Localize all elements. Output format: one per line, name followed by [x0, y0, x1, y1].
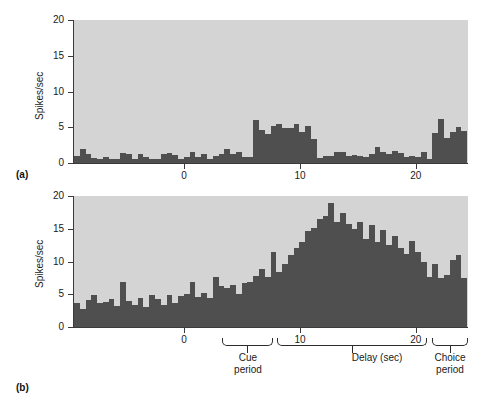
y-axis-tick-label: 20 [34, 191, 64, 201]
y-axis-tick-label: 5 [34, 122, 64, 132]
panel-b-y-axis-line [73, 196, 74, 328]
panel-b-plot-area [74, 196, 468, 327]
y-axis-tick [68, 196, 73, 197]
panel-a-x-axis-line [73, 163, 468, 164]
panel-a-y-axis-line [73, 20, 74, 164]
cue-period-bracket [222, 338, 273, 346]
y-axis-tick [68, 327, 73, 328]
x-axis-tick [416, 328, 417, 333]
panel-b-x-axis-line [73, 327, 468, 328]
y-axis-tick-label: 0 [34, 322, 64, 332]
histogram-bar [461, 278, 467, 327]
x-axis-tick-label: 20 [396, 171, 436, 181]
y-axis-tick-label: 20 [34, 15, 64, 25]
delay-period-bracket [277, 338, 427, 346]
panel-a-bars [74, 20, 468, 163]
panel-a: Spikes/sec 05101520 01020 (a) [0, 0, 491, 190]
y-axis-tick [68, 92, 73, 93]
spike-rate-figure: Spikes/sec 05101520 01020 (a) Spikes/sec… [0, 0, 491, 403]
y-axis-tick-label: 0 [34, 158, 64, 168]
panel-b: Spikes/sec 05101520 01020 Cue period Del… [0, 190, 491, 403]
y-axis-tick [68, 229, 73, 230]
x-axis-tick-label: 10 [280, 171, 320, 181]
panel-a-letter: (a) [16, 169, 28, 180]
x-axis-tick [416, 164, 417, 169]
x-axis-tick-label: 0 [164, 335, 204, 345]
x-axis-tick [300, 328, 301, 333]
choice-period-bracket [432, 338, 468, 346]
x-axis-tick [300, 164, 301, 169]
cue-period-label: Cue period [213, 352, 283, 376]
y-axis-tick-label: 15 [34, 51, 64, 61]
y-axis-tick-label: 10 [34, 257, 64, 267]
x-axis-tick-label: 0 [164, 171, 204, 181]
y-axis-tick [68, 163, 73, 164]
y-axis-tick [68, 56, 73, 57]
y-axis-tick [68, 262, 73, 263]
x-axis-tick [184, 328, 185, 333]
y-axis-tick-label: 5 [34, 289, 64, 299]
panel-b-letter: (b) [16, 382, 29, 393]
y-axis-tick-label: 10 [34, 87, 64, 97]
histogram-bar [461, 131, 467, 163]
panel-a-plot-area [74, 20, 468, 163]
choice-period-label: Choice period [415, 352, 485, 376]
panel-b-bars [74, 196, 468, 327]
y-axis-tick-label: 15 [34, 224, 64, 234]
y-axis-tick [68, 294, 73, 295]
x-axis-tick [184, 164, 185, 169]
y-axis-tick [68, 20, 73, 21]
y-axis-tick [68, 127, 73, 128]
